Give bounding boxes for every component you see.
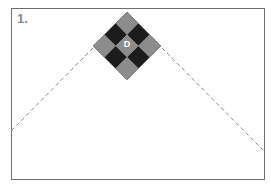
right-dashed-line <box>162 48 265 152</box>
block-center-letter: D <box>120 39 134 49</box>
left-dashed-line <box>12 48 93 130</box>
diagram-graphics <box>0 0 271 187</box>
